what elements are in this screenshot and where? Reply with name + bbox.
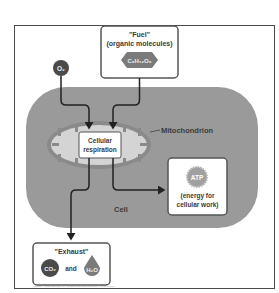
co2-label: CO₂	[44, 266, 56, 272]
atp-box: ATP (energy for cellular work)	[168, 158, 227, 215]
exhaust-title: "Exhaust"	[55, 248, 89, 255]
cellular-respiration-diagram: Mitochondrion "Fuel" (organic molecules)…	[0, 0, 279, 293]
cellular-respiration-box: Cellular respiration	[79, 132, 121, 158]
exhaust-box: "Exhaust" CO₂ and H₂O	[33, 243, 110, 285]
atp-label: ATP	[191, 174, 204, 181]
atp-line2: cellular work)	[177, 201, 219, 209]
fuel-box: "Fuel" (organic molecules) C₆H₁₂O₆	[101, 26, 178, 78]
oxygen-label: O₂	[57, 65, 65, 72]
atp-line1: (energy for	[181, 192, 215, 200]
cell-label: Cell	[114, 205, 128, 214]
copyright-caption: Copyright © Pearson Education, Inc., pub…	[33, 285, 115, 287]
and-label: and	[65, 265, 77, 272]
mitochondrion-label: Mitochondrion	[161, 126, 213, 135]
fuel-subtitle: (organic molecules)	[106, 40, 172, 48]
process-line1: Cellular	[88, 137, 112, 144]
process-line2: respiration	[83, 146, 117, 154]
glucose-formula: C₆H₁₂O₆	[128, 58, 152, 64]
h2o-label: H₂O	[86, 267, 98, 273]
fuel-title: "Fuel"	[129, 31, 150, 38]
oxygen: O₂	[53, 60, 69, 76]
